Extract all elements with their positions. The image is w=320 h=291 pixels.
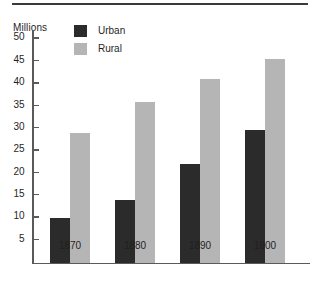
y-tick-label-30: 30 — [13, 121, 24, 133]
x-axis-line — [32, 263, 310, 265]
y-tick-label-5: 5 — [19, 233, 25, 245]
y-tick-10: 10 — [34, 216, 39, 218]
x-axis-label-1870: 1870 — [44, 240, 96, 252]
bar-rural-1880 — [135, 102, 155, 263]
y-tick-5: 5 — [34, 239, 39, 241]
y-tick-35: 35 — [34, 105, 39, 107]
x-axis-label-1880: 1880 — [109, 240, 161, 252]
bar-chart-figure: Millions Urban Rural 5101520253035404550… — [0, 0, 320, 291]
y-tick-label-20: 20 — [13, 166, 24, 178]
y-tick-label-40: 40 — [13, 76, 24, 88]
y-tick-label-35: 35 — [13, 99, 24, 111]
bar-rural-1900 — [265, 59, 285, 262]
y-tick-30: 30 — [34, 127, 39, 129]
bar-urban-1880 — [115, 200, 135, 263]
y-tick-label-25: 25 — [13, 143, 24, 155]
y-tick-50: 50 — [34, 37, 39, 39]
plot-area: 5101520253035404550 — [32, 30, 310, 264]
y-tick-25: 25 — [34, 149, 39, 151]
header-rule — [12, 3, 308, 5]
y-axis-line — [32, 30, 34, 264]
y-tick-label-10: 10 — [13, 210, 24, 222]
y-tick-20: 20 — [34, 172, 39, 174]
y-tick-15: 15 — [34, 194, 39, 196]
y-tick-40: 40 — [34, 82, 39, 84]
y-tick-label-50: 50 — [13, 31, 24, 43]
y-tick-label-45: 45 — [13, 54, 24, 66]
x-axis-label-1900: 1900 — [239, 240, 291, 252]
y-tick-45: 45 — [34, 60, 39, 62]
bar-rural-1890 — [200, 79, 220, 262]
x-axis-label-1890: 1890 — [174, 240, 226, 252]
y-tick-label-15: 15 — [13, 188, 24, 200]
